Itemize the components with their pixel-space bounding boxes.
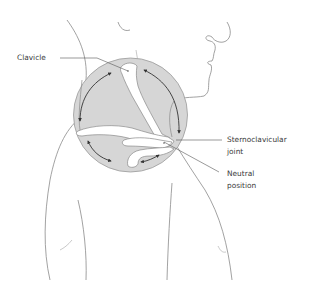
label-neutral-position-line2: position: [227, 180, 256, 192]
diagram-canvas: Clavicle Sternoclavicular joint Neutral …: [0, 0, 313, 295]
anatomy-illustration: [0, 0, 313, 295]
label-sternoclavicular-joint-line1: Sternoclavicular: [227, 134, 287, 146]
neutral-leader: [164, 142, 219, 172]
label-neutral-position-line1: Neutral: [227, 168, 254, 180]
label-clavicle: Clavicle: [17, 52, 46, 64]
label-sternoclavicular-joint-line2: joint: [227, 146, 243, 158]
